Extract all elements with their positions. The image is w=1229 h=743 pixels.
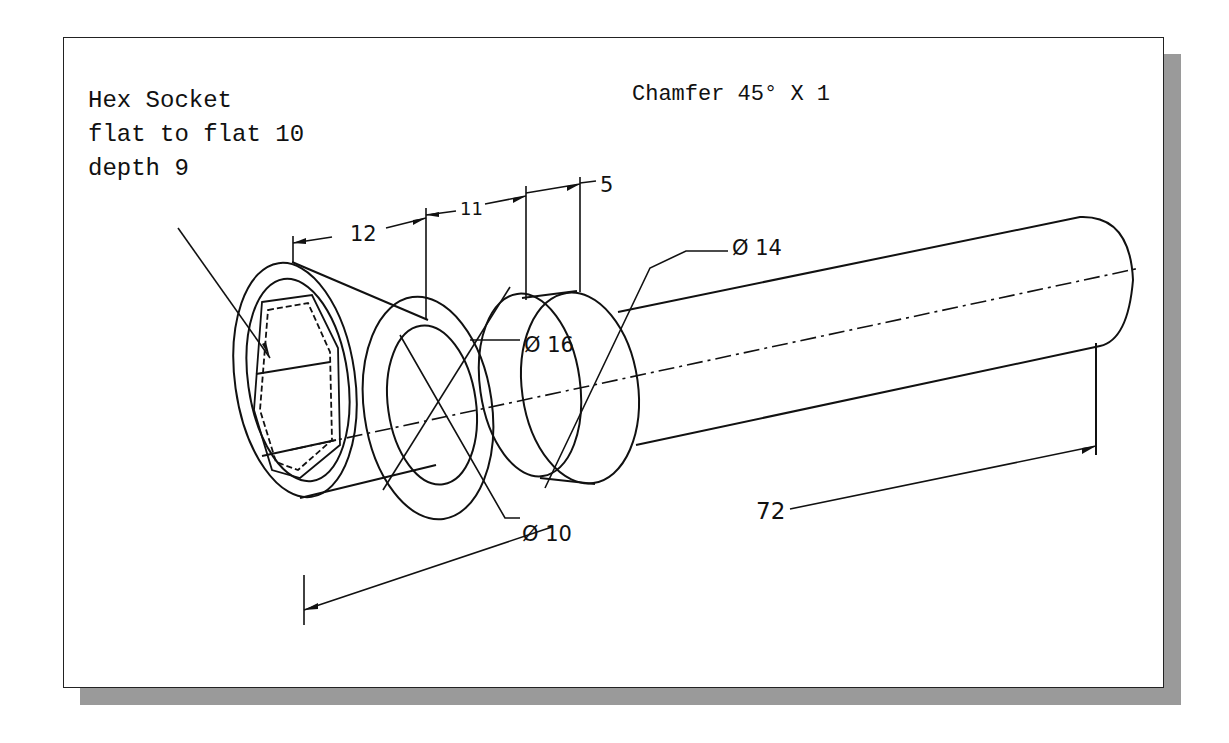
dimension-overall-72: 72	[756, 498, 785, 524]
hex-socket	[254, 295, 340, 478]
dimension-dia-16: Ø 16	[524, 333, 574, 357]
hex-socket-note-line2: flat to flat 10	[88, 118, 304, 152]
hex-socket-note-line3: depth 9	[88, 152, 304, 186]
shoulder-cylinder	[468, 285, 651, 491]
head-cylinder	[219, 255, 436, 505]
chamfer-note: Chamfer 45° X 1	[632, 78, 830, 112]
centerline	[290, 268, 1140, 450]
dimension-12: 12	[350, 222, 377, 246]
dimension-5: 5	[600, 173, 613, 197]
dimension-dia-10: Ø 10	[522, 522, 572, 546]
dimension-dia-14: Ø 14	[732, 236, 782, 260]
hex-socket-note: Hex Socket flat to flat 10 depth 9	[88, 84, 304, 186]
dimension-lines	[178, 181, 1096, 610]
dimension-11: 11	[460, 198, 483, 219]
shaft-rod	[618, 217, 1133, 455]
extension-lines	[293, 177, 580, 625]
hex-socket-note-line1: Hex Socket	[88, 84, 304, 118]
